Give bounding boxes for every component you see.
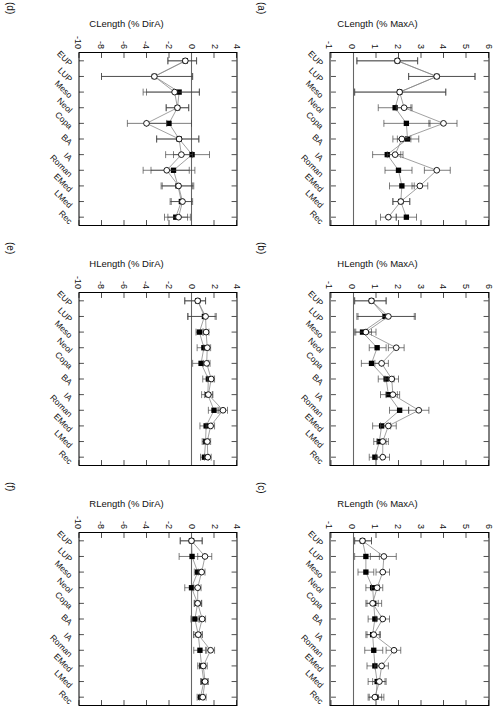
y-tick-d-neg2: -2 (163, 41, 173, 49)
data-point-open-circle (204, 439, 210, 445)
y-tick-b-1: 1 (369, 284, 379, 289)
data-point-open-circle (204, 360, 210, 366)
x-tick-a-Copa: Copa (304, 110, 325, 131)
x-tick-c-Copa: Copa (304, 590, 325, 611)
plot-svg-e (79, 293, 237, 465)
data-point-open-circle (175, 105, 181, 111)
y-tick-a-3: 3 (415, 44, 425, 49)
data-point-open-circle (208, 376, 214, 382)
y-tick-c-5: 5 (460, 524, 470, 529)
data-point-open-circle (385, 423, 391, 429)
data-point-open-circle (189, 538, 195, 544)
data-point-open-circle (208, 423, 214, 429)
y-tick-a-0: 0 (346, 44, 356, 49)
y-tick-f-neg6: -6 (118, 521, 128, 529)
data-point-open-circle (381, 554, 387, 560)
data-point-open-circle (199, 616, 205, 622)
y-tick-d-neg10: -10 (72, 36, 82, 49)
data-point-open-circle (376, 679, 382, 685)
data-point-open-circle (220, 407, 226, 413)
x-tick-f-Rec: Rec (56, 688, 74, 706)
data-point-open-circle (391, 647, 397, 653)
plot-svg-c (331, 533, 489, 705)
panel-letter-f: (f) (4, 482, 15, 491)
data-point-filled-square (374, 345, 379, 350)
y-tick-c-1: 1 (369, 524, 379, 529)
x-tick-c-Rec: Rec (308, 688, 326, 706)
chart-panel-b: (b)HLength (% MaxA)6543210-1EUPLUPMesoNe… (252, 240, 503, 480)
data-point-filled-square (189, 554, 194, 559)
plot-svg-a (331, 53, 489, 225)
data-point-open-circle (195, 585, 201, 591)
x-tick-b-Rec: Rec (308, 448, 326, 466)
chart-panel-c: (c)RLength (% MaxA)6543210-1EUPLUPMesoNe… (252, 480, 503, 720)
y-tick-a-4: 4 (437, 44, 447, 49)
x-tick-b-EUP: EUP (306, 289, 325, 308)
y-tick-f-neg2: -2 (163, 521, 173, 529)
data-point-open-circle (379, 616, 385, 622)
y-tick-f-neg10: -10 (72, 516, 82, 529)
y-tick-a-neg1: -1 (324, 41, 334, 49)
x-tick-d-LMed: LMed (52, 188, 74, 210)
data-point-open-circle (176, 136, 182, 142)
y-tick-e-0: 0 (186, 284, 196, 289)
plot-svg-b (331, 293, 489, 465)
data-point-open-circle (379, 454, 385, 460)
data-point-open-circle (195, 600, 201, 606)
data-point-filled-square (189, 585, 194, 590)
panel-letter-e: (e) (4, 242, 15, 254)
y-tick-e-neg2: -2 (163, 281, 173, 289)
y-tick-e-neg10: -10 (72, 276, 82, 289)
chart-panel-d: (d)CLength (% DirA)420-2-4-6-8-10EUPLUPM… (0, 0, 252, 240)
y-tick-b-neg1: -1 (324, 281, 334, 289)
data-point-open-circle (390, 392, 396, 398)
y-axis-label-f: RLength (% DirA) (51, 498, 201, 509)
y-tick-b-5: 5 (460, 284, 470, 289)
data-point-open-circle (433, 74, 439, 80)
y-tick-b-2: 2 (392, 284, 402, 289)
y-tick-e-neg4: -4 (140, 281, 150, 289)
x-tick-e-Rec: Rec (56, 448, 74, 466)
x-tick-d-Rec: Rec (56, 208, 74, 226)
data-point-open-circle (433, 167, 439, 173)
y-tick-d-neg8: -8 (95, 41, 105, 49)
plot-area-c: 6543210-1EUPLUPMesoNeolCopaBAIARomanEMed… (330, 532, 490, 706)
y-tick-c-0: 0 (346, 524, 356, 529)
x-tick-b-Copa: Copa (304, 350, 325, 371)
data-point-open-circle (385, 214, 391, 220)
y-tick-c-neg1: -1 (324, 521, 334, 529)
data-point-open-circle (172, 89, 178, 95)
y-tick-c-4: 4 (437, 524, 447, 529)
data-point-open-circle (203, 314, 209, 320)
data-point-open-circle (195, 298, 201, 304)
data-point-filled-square (395, 168, 400, 173)
y-tick-c-2: 2 (392, 524, 402, 529)
data-point-open-circle (205, 454, 211, 460)
data-point-open-circle (379, 439, 385, 445)
data-point-open-circle (372, 694, 378, 700)
data-point-open-circle (200, 694, 206, 700)
data-point-open-circle (368, 298, 374, 304)
data-point-filled-square (197, 648, 202, 653)
y-tick-a-5: 5 (460, 44, 470, 49)
y-tick-f-0: 0 (186, 524, 196, 529)
data-point-open-circle (374, 585, 380, 591)
y-tick-a-2: 2 (392, 44, 402, 49)
y-axis-label-e: HLength (% DirA) (51, 258, 201, 269)
y-tick-a-6: 6 (483, 44, 493, 49)
figure-rotation-wrapper: (a)CLength (% MaxA)6543210-1EUPLUPMesoNe… (0, 0, 503, 720)
data-point-open-circle (397, 199, 403, 205)
plot-area-e: 420-2-4-6-8-10EUPLUPMesoNeolCopaBAIARoma… (78, 292, 238, 466)
figure-canvas: (a)CLength (% MaxA)6543210-1EUPLUPMesoNe… (0, 0, 503, 720)
x-tick-d-Copa: Copa (53, 110, 74, 131)
panel-letter-c: (c) (256, 482, 267, 494)
data-point-filled-square (399, 183, 404, 188)
y-tick-e-neg8: -8 (95, 281, 105, 289)
y-tick-e-4: 4 (232, 284, 242, 289)
data-point-open-circle (393, 345, 399, 351)
x-tick-d-EUP: EUP (55, 49, 74, 68)
y-tick-f-neg4: -4 (140, 521, 150, 529)
y-tick-b-4: 4 (437, 284, 447, 289)
data-point-filled-square (211, 408, 216, 413)
y-tick-b-0: 0 (346, 284, 356, 289)
